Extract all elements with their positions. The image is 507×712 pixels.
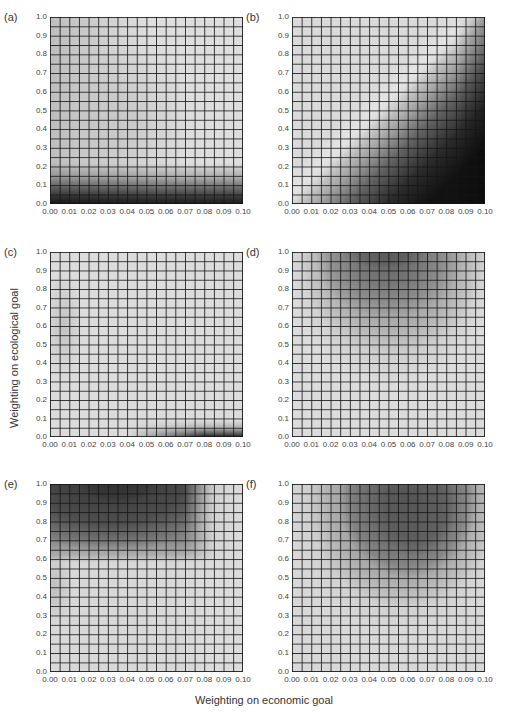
- x-tick-label: 0.07: [417, 675, 437, 684]
- y-tick-label: 1.0: [271, 247, 289, 256]
- x-tick-label: 0.05: [379, 675, 399, 684]
- y-tick-label: 0.5: [271, 106, 289, 115]
- x-tick-label: 0.09: [214, 675, 234, 684]
- x-tick-label: 0.01: [301, 207, 321, 216]
- grid-overlay: [50, 17, 243, 204]
- x-tick-label: 0.01: [59, 440, 79, 449]
- x-tick-label: 0.03: [98, 675, 118, 684]
- y-tick-label: 0.1: [29, 180, 47, 189]
- x-tick-label: 0.02: [79, 207, 99, 216]
- x-tick-label: 0.00: [282, 440, 302, 449]
- heatmap-plot: [292, 252, 485, 437]
- y-tick-label: 0.7: [29, 303, 47, 312]
- y-tick-label: 0.9: [29, 31, 47, 40]
- x-tick-label: 0.10: [233, 675, 253, 684]
- x-tick-label: 0.03: [98, 207, 118, 216]
- y-tick-label: 0.2: [271, 162, 289, 171]
- x-tick-label: 0.08: [436, 675, 456, 684]
- x-tick-label: 0.02: [321, 207, 341, 216]
- y-tick-label: 0.4: [29, 358, 47, 367]
- x-tick-label: 0.04: [359, 207, 379, 216]
- y-tick-label: 0.4: [29, 124, 47, 133]
- y-tick-label: 0.2: [29, 629, 47, 638]
- y-tick-label: 0.8: [271, 49, 289, 58]
- heatmap-plot: [50, 484, 243, 672]
- y-tick-label: 0.5: [29, 106, 47, 115]
- y-tick-label: 0.1: [271, 180, 289, 189]
- y-tick-label: 1.0: [29, 12, 47, 21]
- panel-label: (f): [246, 478, 256, 490]
- x-tick-label: 0.06: [398, 675, 418, 684]
- x-tick-label: 0.05: [379, 440, 399, 449]
- panel-label: (b): [246, 11, 259, 23]
- y-axis-label: Weighting on ecological goal: [8, 288, 20, 428]
- y-tick-label: 0.3: [29, 143, 47, 152]
- x-axis-label: Weighting on economic goal: [195, 694, 333, 706]
- x-tick-label: 0.08: [194, 675, 214, 684]
- y-tick-label: 0.1: [29, 648, 47, 657]
- x-tick-label: 0.04: [359, 440, 379, 449]
- y-tick-label: 0.5: [271, 340, 289, 349]
- x-tick-label: 0.09: [456, 440, 476, 449]
- y-tick-label: 0.6: [29, 321, 47, 330]
- panel-label: (d): [246, 246, 259, 258]
- panel-label: (e): [4, 478, 17, 490]
- y-tick-label: 1.0: [29, 247, 47, 256]
- x-tick-label: 0.06: [156, 440, 176, 449]
- x-tick-label: 0.04: [359, 675, 379, 684]
- x-tick-label: 0.05: [137, 675, 157, 684]
- x-tick-label: 0.10: [233, 207, 253, 216]
- y-tick-label: 0.2: [29, 162, 47, 171]
- x-tick-label: 0.10: [475, 207, 495, 216]
- y-tick-label: 0.5: [29, 340, 47, 349]
- y-tick-label: 0.3: [29, 377, 47, 386]
- heatmap-plot: [50, 252, 243, 437]
- heatmap-plot: [292, 17, 485, 204]
- y-tick-label: 0.2: [271, 629, 289, 638]
- x-tick-label: 0.03: [98, 440, 118, 449]
- y-tick-label: 0.3: [271, 377, 289, 386]
- grid-overlay: [50, 484, 243, 672]
- y-tick-label: 0.3: [271, 143, 289, 152]
- y-tick-label: 0.9: [271, 266, 289, 275]
- x-tick-label: 0.00: [40, 440, 60, 449]
- y-tick-label: 0.8: [29, 49, 47, 58]
- y-tick-label: 0.9: [271, 498, 289, 507]
- x-tick-label: 0.06: [156, 207, 176, 216]
- y-tick-label: 0.7: [29, 535, 47, 544]
- x-tick-label: 0.01: [301, 675, 321, 684]
- y-tick-label: 0.4: [271, 124, 289, 133]
- grid-overlay: [50, 252, 243, 437]
- x-tick-label: 0.09: [214, 440, 234, 449]
- x-tick-label: 0.03: [340, 675, 360, 684]
- y-tick-label: 0.7: [271, 68, 289, 77]
- heatmap-plot: [50, 17, 243, 204]
- y-tick-label: 0.2: [29, 395, 47, 404]
- y-tick-label: 0.7: [271, 535, 289, 544]
- x-tick-label: 0.00: [40, 675, 60, 684]
- y-tick-label: 0.8: [29, 284, 47, 293]
- x-tick-label: 0.08: [436, 207, 456, 216]
- x-tick-label: 0.08: [194, 207, 214, 216]
- x-tick-label: 0.09: [214, 207, 234, 216]
- x-tick-label: 0.00: [282, 207, 302, 216]
- x-tick-label: 0.07: [175, 675, 195, 684]
- x-tick-label: 0.06: [398, 440, 418, 449]
- y-tick-label: 0.1: [271, 414, 289, 423]
- y-tick-label: 1.0: [271, 12, 289, 21]
- grid-overlay: [292, 484, 485, 672]
- x-tick-label: 0.01: [59, 675, 79, 684]
- x-tick-label: 0.05: [137, 207, 157, 216]
- y-tick-label: 0.4: [271, 358, 289, 367]
- x-tick-label: 0.10: [475, 440, 495, 449]
- y-tick-label: 0.5: [29, 573, 47, 582]
- y-tick-label: 0.6: [29, 554, 47, 563]
- grid-overlay: [292, 252, 485, 437]
- x-tick-label: 0.00: [40, 207, 60, 216]
- x-tick-label: 0.02: [321, 440, 341, 449]
- grid-overlay: [292, 17, 485, 204]
- y-tick-label: 0.8: [29, 517, 47, 526]
- x-tick-label: 0.01: [59, 207, 79, 216]
- y-tick-label: 0.3: [271, 611, 289, 620]
- y-tick-label: 0.3: [29, 611, 47, 620]
